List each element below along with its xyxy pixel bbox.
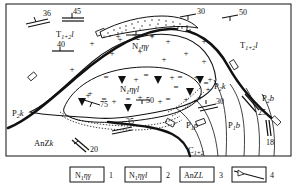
svg-text:=: =: [125, 94, 130, 104]
svg-text:=: =: [173, 82, 178, 92]
svg-text:+: +: [183, 48, 188, 58]
dip-value-50-top: 50: [239, 8, 247, 17]
legend-label-3: AnZL: [184, 171, 204, 180]
dip-value-75: 75: [100, 100, 108, 109]
dip-value-30-top: 30: [197, 7, 205, 16]
dip-value-18: 18: [266, 138, 274, 147]
svg-text:+: +: [201, 56, 206, 66]
formation-label-anzk: AnZk: [34, 138, 54, 148]
dip-value-50-inner: 50: [146, 96, 154, 105]
legend-item-2[interactable]: N1ηγl 2: [125, 167, 170, 182]
formation-label-granite-outer: N1ηγ: [132, 41, 149, 52]
svg-text:+: +: [161, 54, 166, 64]
svg-text:+: +: [115, 31, 120, 41]
svg-text:+: +: [165, 36, 170, 46]
svg-text:=: =: [103, 72, 108, 82]
dip-value-25: 25: [258, 108, 266, 117]
svg-text:+: +: [183, 94, 188, 104]
legend-item-4[interactable]: 4: [232, 167, 274, 182]
svg-text:+: +: [89, 38, 94, 48]
legend-label-2: N1ηγl: [129, 171, 148, 181]
svg-text:+: +: [201, 36, 206, 46]
svg-text:+: +: [109, 48, 114, 58]
legend-number-4: 4: [270, 171, 274, 180]
svg-text:+: +: [69, 64, 74, 74]
svg-text:+: +: [133, 74, 138, 84]
dip-value-40: 40: [57, 40, 65, 49]
legend-item-1[interactable]: N1ηγ 1: [70, 167, 113, 182]
svg-text:+: +: [157, 96, 162, 106]
legend-item-3[interactable]: AnZL 3: [180, 167, 223, 182]
svg-text:+: +: [111, 96, 116, 106]
svg-text:=: =: [193, 96, 198, 106]
legend-number-3: 3: [219, 171, 223, 180]
legend-number-2: 2: [166, 171, 170, 180]
map-canvas: + + + + + + + + + + + + + + + + + + + + …: [0, 0, 297, 195]
svg-text:=: =: [143, 70, 148, 80]
dip-value-45: 45: [73, 7, 81, 16]
dip-value-20: 20: [90, 145, 98, 154]
legend-number-1: 1: [109, 171, 113, 180]
dip-value-30-right: 30: [216, 97, 224, 106]
geological-map-figure: + + + + + + + + + + + + + + + + + + + + …: [0, 0, 297, 195]
dip-value-35: 35: [126, 117, 134, 126]
svg-text:=: =: [177, 72, 182, 82]
svg-text:+: +: [85, 90, 90, 100]
svg-text:=: =: [165, 94, 170, 104]
svg-text:=: =: [203, 78, 208, 88]
dip-value-36: 36: [43, 9, 51, 18]
formation-label-granite-inner: N1ηγl: [120, 84, 140, 95]
svg-text:+: +: [169, 72, 174, 82]
legend-label-1: N1ηγ: [75, 171, 92, 181]
legend: N1ηγ 1 N1ηγl 2 AnZL 3 4: [70, 167, 274, 182]
svg-text:+: +: [149, 31, 154, 41]
